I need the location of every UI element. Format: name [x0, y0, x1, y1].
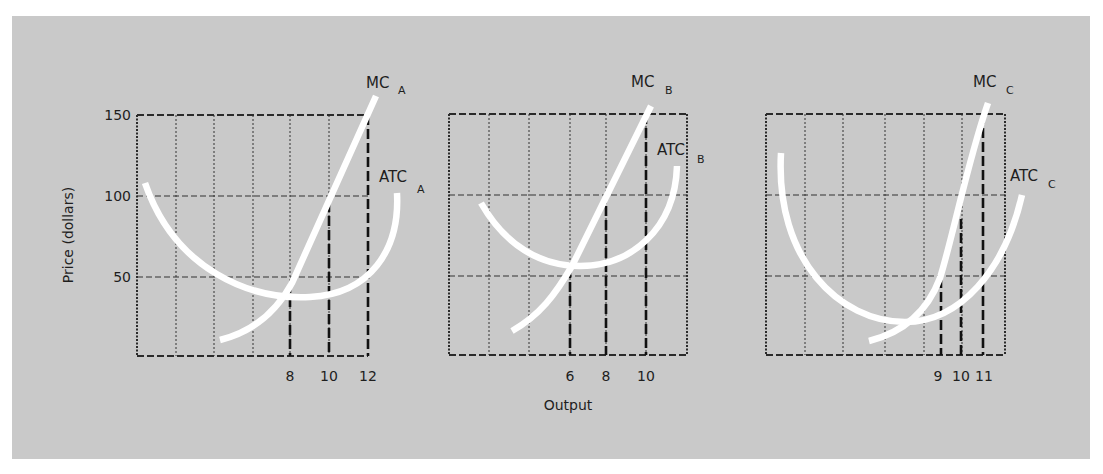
panel-b-x-tick-10: 10	[637, 368, 655, 384]
panel-c-mc-label: MC	[973, 73, 996, 91]
panel-b-atc-label: ATC	[657, 141, 685, 159]
panel-c-x-tick-10: 10	[952, 368, 970, 384]
cost-curves-figure: Price (dollars) 150 100 50 MC A ATC A 8 …	[0, 0, 1103, 474]
panel-a-x-tick-8: 8	[286, 368, 295, 384]
panel-b-x-tick-6: 6	[566, 368, 575, 384]
panel-c-x-tick-11: 11	[975, 368, 993, 384]
panel-a-x-tick-12: 12	[359, 368, 377, 384]
panel-c-atc-subscript: C	[1048, 178, 1056, 191]
panel-b-x-tick-8: 8	[602, 368, 611, 384]
y-tick-50: 50	[113, 269, 131, 285]
panel-b-mc-label: MC	[631, 73, 654, 91]
panel-a-mc-subscript: A	[398, 84, 406, 97]
panel-c-atc-label: ATC	[1010, 167, 1038, 185]
y-tick-100: 100	[104, 188, 131, 204]
panel-a-mc-label: MC	[366, 74, 389, 92]
x-axis-label: Output	[544, 397, 593, 413]
y-axis-label: Price (dollars)	[60, 187, 76, 283]
panel-a-atc-label: ATC	[379, 168, 407, 186]
panel-a-atc-subscript: A	[417, 183, 425, 196]
panel-c-x-tick-9: 9	[934, 368, 943, 384]
panel-c-mc-subscript: C	[1006, 84, 1014, 97]
panel-b-mc-subscript: B	[665, 84, 673, 97]
y-tick-150: 150	[104, 107, 131, 123]
panel-b-atc-subscript: B	[697, 153, 705, 166]
panel-a-x-tick-10: 10	[320, 368, 338, 384]
